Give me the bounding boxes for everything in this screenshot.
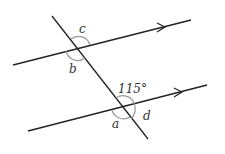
angle-c-label: c [79,22,86,36]
angle-b-arc [66,51,85,60]
angle-b-label: b [69,62,77,76]
diagram-canvas: c b 115° a d [0,0,225,154]
angle-115-label: 115° [118,82,147,96]
angle-d-label: d [143,109,151,123]
angle-d-arc [131,103,135,119]
angle-a-label: a [112,117,119,131]
